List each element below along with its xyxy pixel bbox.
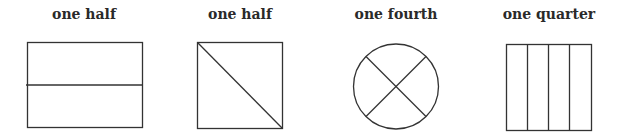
rectangle-halved-horizontal [26, 43, 143, 128]
rectangle-quartered-vertical [507, 45, 592, 131]
square-halved-diagonal [198, 43, 283, 129]
circle-quartered [354, 44, 439, 129]
fraction-shapes [0, 0, 619, 139]
